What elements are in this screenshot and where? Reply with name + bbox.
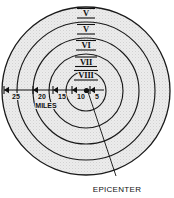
scale-tick-label-10: 10 xyxy=(77,93,85,100)
isoseismal-figure: V V VI VII VIII xyxy=(0,0,174,198)
scale-tick-label-15: 15 xyxy=(58,93,66,100)
scale-caption-miles: MILES xyxy=(35,102,57,109)
scale-tick-label-25: 25 xyxy=(12,93,20,100)
intensity-label-V-second: V xyxy=(83,24,90,34)
isoseismal-map-svg: V V VI VII VIII xyxy=(0,0,174,198)
intensity-label-V-outer: V xyxy=(83,8,90,18)
epicenter-marker xyxy=(84,88,89,93)
scale-tick-label-20: 20 xyxy=(38,93,46,100)
intensity-label-VIII: VIII xyxy=(78,70,94,80)
epicenter-callout-label: EPICENTER xyxy=(93,185,142,194)
intensity-label-VII: VII xyxy=(80,57,93,67)
scale-tick-label-5: 5 xyxy=(95,93,99,100)
intensity-label-VI: VI xyxy=(81,40,91,50)
